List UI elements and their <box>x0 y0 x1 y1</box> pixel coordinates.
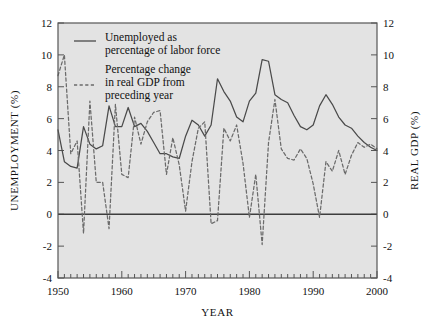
x-tick-label: 1970 <box>175 285 198 297</box>
plot-background-layer <box>58 23 377 278</box>
plot-area-background <box>58 23 377 278</box>
legend-label-line: Unemployed as <box>105 31 177 44</box>
y-tick-label-right: 2 <box>383 176 389 188</box>
y-tick-label-right: -2 <box>383 240 392 252</box>
legend-label-line: in real GDP from <box>105 76 185 88</box>
y-tick-label-right: 0 <box>383 208 389 220</box>
legend-label-line: Percentage change <box>105 63 191 76</box>
y-tick-label-left: -2 <box>43 240 52 252</box>
x-tick-label: 1990 <box>302 285 325 297</box>
y-tick-label-left: 10 <box>41 49 53 61</box>
chart-figure: -4-4-2-200224466881010121219501960197019… <box>0 0 433 323</box>
y-tick-label-left: 0 <box>47 208 53 220</box>
y-tick-label-left: 8 <box>47 81 53 93</box>
y-axis-title-right: REAL GDP (%) <box>408 111 421 190</box>
legend-label-line: preceding year <box>105 89 173 102</box>
y-tick-label-right: 10 <box>383 49 395 61</box>
x-tick-label: 1980 <box>238 285 261 297</box>
y-tick-label-right: -4 <box>383 272 393 284</box>
y-axis-title-left: UNEMPLOYMENT (%) <box>8 90 21 211</box>
x-tick-label: 1960 <box>111 285 134 297</box>
y-tick-label-right: 8 <box>383 81 389 93</box>
y-tick-label-left: 12 <box>41 17 52 29</box>
y-tick-label-right: 6 <box>383 113 389 125</box>
unemployment-gdp-line-chart: -4-4-2-200224466881010121219501960197019… <box>0 0 433 323</box>
x-axis-title: YEAR <box>201 306 233 318</box>
legend-label-line: percentage of labor force <box>105 44 220 57</box>
y-tick-label-left: 4 <box>47 145 53 157</box>
y-tick-label-right: 4 <box>383 145 389 157</box>
x-tick-label: 2000 <box>366 285 389 297</box>
x-tick-label: 1950 <box>47 285 70 297</box>
y-tick-label-left: -4 <box>43 272 53 284</box>
y-tick-label-right: 12 <box>383 17 394 29</box>
y-tick-label-left: 2 <box>47 176 53 188</box>
y-tick-label-left: 6 <box>47 113 53 125</box>
